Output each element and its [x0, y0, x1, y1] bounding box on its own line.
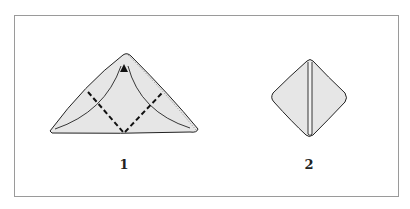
panel-1-label: 1: [119, 157, 128, 172]
panel-2-label: 2: [304, 157, 313, 172]
folded-triangle-illustration: [50, 54, 198, 134]
diagram-canvas: [0, 0, 410, 209]
folded-diamond-illustration: [272, 60, 347, 137]
